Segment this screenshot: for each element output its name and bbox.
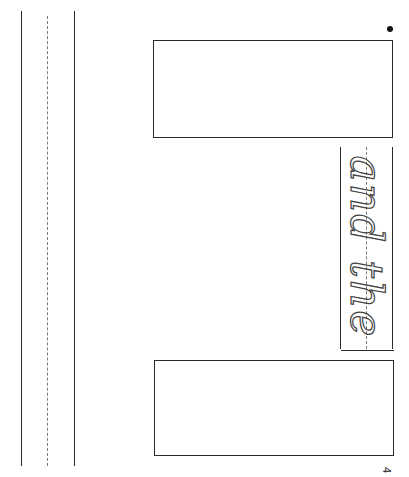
left-baseline xyxy=(21,11,22,466)
cursive-trace-area: and the xyxy=(338,147,394,347)
left-midline xyxy=(47,16,48,466)
bullet-dot xyxy=(387,26,393,32)
page-number: 4 xyxy=(381,467,393,473)
cursive-trace-text: and the xyxy=(341,156,392,339)
trace-end-line xyxy=(341,350,394,351)
left-topline xyxy=(74,11,75,466)
bottom-answer-box[interactable] xyxy=(154,360,394,456)
top-answer-box[interactable] xyxy=(153,40,393,138)
